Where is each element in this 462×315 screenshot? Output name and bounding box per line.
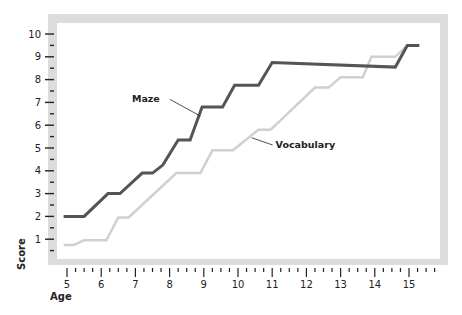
x-tick-label: 14 [368, 279, 381, 290]
chart: 12345678910 56789101112131415 MazeVocabu… [0, 0, 462, 315]
y-tick-label: 4 [35, 165, 41, 176]
x-tick-label: 13 [334, 279, 347, 290]
x-tick-label: 8 [166, 279, 172, 290]
y-tick-label: 5 [35, 143, 41, 154]
x-tick-label: 15 [403, 279, 416, 290]
y-tick-label: 8 [35, 74, 41, 85]
x-axis: 56789101112131415 [64, 268, 435, 290]
y-tick-label: 9 [35, 51, 41, 62]
series-label-maze: Maze [132, 93, 160, 104]
y-tick-label: 3 [35, 188, 41, 199]
x-tick-label: 9 [201, 279, 207, 290]
y-tick-label: 2 [35, 211, 41, 222]
series-label-vocabulary: Vocabulary [276, 139, 336, 150]
x-tick-label: 7 [132, 279, 138, 290]
y-tick-label: 7 [35, 97, 41, 108]
y-tick-label: 6 [35, 120, 41, 131]
x-tick-label: 10 [232, 279, 245, 290]
x-tick-label: 12 [300, 279, 313, 290]
x-axis-title: Age [50, 291, 72, 302]
y-tick-label: 10 [28, 29, 41, 40]
x-tick-label: 6 [98, 279, 104, 290]
x-tick-label: 11 [266, 279, 279, 290]
y-tick-label: 1 [35, 234, 41, 245]
x-tick-label: 5 [64, 279, 70, 290]
y-axis-title: Score [16, 238, 27, 270]
